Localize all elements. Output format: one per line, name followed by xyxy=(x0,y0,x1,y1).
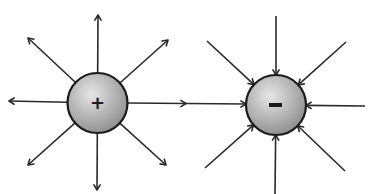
field-line-up-left xyxy=(207,41,254,85)
negative-sign xyxy=(269,103,282,107)
field-line-down-right xyxy=(120,123,166,165)
field-line-right xyxy=(306,105,365,106)
positive-sign: + xyxy=(90,92,105,113)
field-line-down-left xyxy=(28,123,75,165)
field-line-down-right xyxy=(298,126,345,171)
field-line-up-left xyxy=(28,38,76,83)
field-line-down xyxy=(275,135,276,194)
positive-charge: + xyxy=(68,73,128,133)
negative-charge xyxy=(246,75,306,135)
connecting-field-line xyxy=(128,100,247,107)
field-line-left xyxy=(9,101,68,102)
field-line-up-right xyxy=(120,40,168,83)
field-line-up-right xyxy=(298,42,346,85)
electric-field-diagram: + xyxy=(0,0,371,194)
field-line-down-left xyxy=(205,125,254,168)
